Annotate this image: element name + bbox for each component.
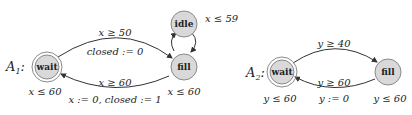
state-fill-a2: fill bbox=[375, 59, 401, 85]
diagram-canvas: A1: wait fill idle x ≥ 50 closed := 0 x … bbox=[0, 0, 412, 115]
state-idle-a1: idle bbox=[171, 11, 197, 37]
automaton-1-label: A1: bbox=[5, 59, 25, 76]
update-fill-wait-a2: y := 0 bbox=[318, 93, 350, 104]
invariant-fill-a2: y ≤ 60 bbox=[372, 93, 407, 104]
svg-text:fill: fill bbox=[177, 62, 191, 72]
update-wait-fill-a1: closed := 0 bbox=[87, 46, 144, 57]
edge-idle-to-fill bbox=[191, 33, 196, 52]
edge-wait-to-fill-a2 bbox=[293, 49, 377, 63]
automaton-2: A2: wait fill y ≥ 40 y ≥ 60 y := 0 y ≤ 6… bbox=[245, 38, 407, 104]
guard-wait-fill-a1: x ≥ 50 bbox=[98, 27, 132, 38]
automaton-2-label: A2: bbox=[245, 65, 265, 82]
automaton-1: A1: wait fill idle x ≥ 50 closed := 0 x … bbox=[5, 11, 239, 105]
svg-text:fill: fill bbox=[381, 67, 395, 77]
svg-text:wait: wait bbox=[35, 62, 58, 72]
invariant-wait-a2: y ≤ 60 bbox=[262, 93, 297, 104]
state-wait-a1: wait bbox=[32, 52, 62, 82]
state-fill-a1: fill bbox=[171, 54, 197, 80]
edge-fill-to-idle bbox=[171, 33, 176, 51]
state-wait-a2: wait bbox=[267, 57, 297, 87]
update-fill-wait-a1: x := 0, closed := 1 bbox=[68, 94, 161, 105]
invariant-idle-a1: x ≤ 59 bbox=[205, 13, 239, 24]
invariant-wait-a1: x ≤ 60 bbox=[28, 86, 62, 97]
svg-text:wait: wait bbox=[270, 67, 293, 77]
invariant-fill-a1: x ≤ 60 bbox=[167, 86, 201, 97]
guard-wait-fill-a2: y ≥ 40 bbox=[316, 38, 351, 49]
guard-fill-wait-a1: x ≥ 60 bbox=[98, 77, 132, 88]
svg-text:idle: idle bbox=[175, 19, 194, 29]
guard-fill-wait-a2: y ≥ 60 bbox=[316, 77, 351, 88]
